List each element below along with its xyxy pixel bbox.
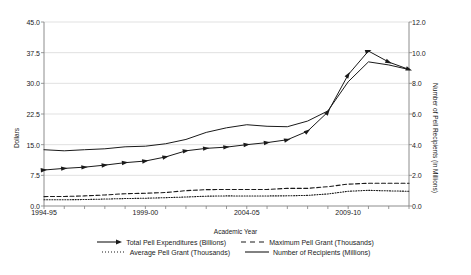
legend-item-maximum-pell-grant: Maximum Pell Grant (Thousands) xyxy=(240,238,374,246)
gridlines xyxy=(44,22,409,175)
line-dotted-icon xyxy=(101,248,127,256)
series-marker-arrow xyxy=(101,163,108,168)
data-series xyxy=(41,48,413,200)
line-solid-icon xyxy=(244,248,270,256)
series-marker-arrow xyxy=(284,137,291,143)
plot-area xyxy=(0,0,471,275)
line-dashed-icon xyxy=(240,238,266,246)
series-marker-arrow xyxy=(203,146,210,151)
legend-label: Average Pell Grant (Thousands) xyxy=(130,249,230,256)
series-marker-arrow xyxy=(223,145,230,150)
series-marker-arrow xyxy=(162,154,169,160)
legend-row-1: Total Pell Expenditures (Billions) Maxim… xyxy=(97,238,374,246)
legend-item-number-of-recipients: Number of Recipients (Millions) xyxy=(244,248,370,256)
series-line-0 xyxy=(44,51,409,170)
series-marker-arrow xyxy=(365,48,372,54)
legend-item-average-pell-grant: Average Pell Grant (Thousands) xyxy=(101,248,230,256)
legend-row-2: Average Pell Grant (Thousands) Number of… xyxy=(101,248,371,256)
legend-label: Maximum Pell Grant (Thousands) xyxy=(269,239,374,246)
series-marker-arrow xyxy=(61,166,68,171)
series-line-3 xyxy=(44,62,409,151)
series-marker-arrow xyxy=(81,165,88,170)
chart-legend: Total Pell Expenditures (Billions) Maxim… xyxy=(0,238,471,256)
legend-label: Number of Recipients (Millions) xyxy=(273,249,370,256)
legend-item-total-pell-expenditures: Total Pell Expenditures (Billions) xyxy=(97,238,226,246)
line-arrow-icon xyxy=(97,238,123,246)
pell-grant-line-chart: Dollars Number of Pell Recipients (in Mi… xyxy=(0,0,471,275)
legend-label: Total Pell Expenditures (Billions) xyxy=(126,239,226,246)
series-marker-arrow xyxy=(243,142,250,147)
series-line-1 xyxy=(44,183,409,196)
series-marker-arrow xyxy=(122,160,129,165)
